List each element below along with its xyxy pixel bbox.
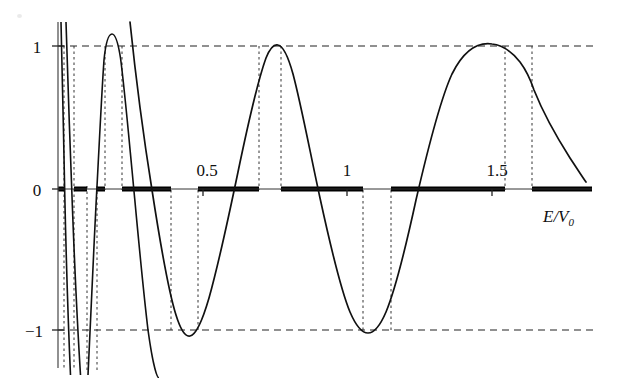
plot-canvas: 1 0 −1 0.5 1 1.5 E/V0 bbox=[0, 0, 623, 378]
dispersion-curve-group bbox=[61, 22, 586, 378]
y-tick-label-1: 1 bbox=[33, 38, 42, 57]
axes-group bbox=[52, 22, 592, 368]
band-structure-figure: 1 0 −1 0.5 1 1.5 E/V0 bbox=[0, 0, 623, 378]
x-axis-caption-main: E/V bbox=[542, 207, 571, 226]
x-axis-caption-subscript: 0 bbox=[569, 216, 575, 228]
dispersion-curve-origin-branch bbox=[61, 22, 71, 375]
y-tick-label-0: 0 bbox=[33, 181, 42, 200]
x-tick-label-0.5: 0.5 bbox=[196, 161, 217, 180]
scan-artifact-speck bbox=[17, 14, 22, 18]
x-axis-caption: E/V0 bbox=[542, 207, 575, 228]
x-tick-label-1: 1 bbox=[343, 161, 352, 180]
dispersion-curve-third-branch bbox=[88, 34, 159, 378]
y-tick-label-minus-1: −1 bbox=[25, 322, 43, 341]
x-tick-label-1.5: 1.5 bbox=[486, 161, 507, 180]
